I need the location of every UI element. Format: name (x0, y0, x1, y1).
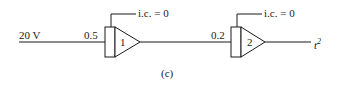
integrator-1-gain: 0.5 (84, 30, 98, 41)
integrator-2-ic: i.c. = 0 (264, 8, 295, 19)
integrator-1-id: 1 (120, 37, 126, 48)
figure-caption: (c) (161, 68, 173, 79)
integrator-1-input-block (105, 27, 115, 57)
integrator-2-triangle (241, 27, 265, 57)
integrator-2-ic-wire (237, 14, 262, 27)
integrator-1-triangle (115, 27, 140, 57)
integrator-2-id: 2 (247, 37, 253, 48)
integrator-2-gain: 0.2 (211, 30, 225, 41)
integrator-1-ic: i.c. = 0 (138, 8, 169, 19)
integrator-2-input-block (231, 27, 241, 57)
output-label: t2 (314, 40, 321, 51)
output-exponent: 2 (317, 37, 321, 46)
input-voltage-label: 20 V (19, 30, 41, 41)
integrator-1-ic-wire (111, 14, 136, 27)
